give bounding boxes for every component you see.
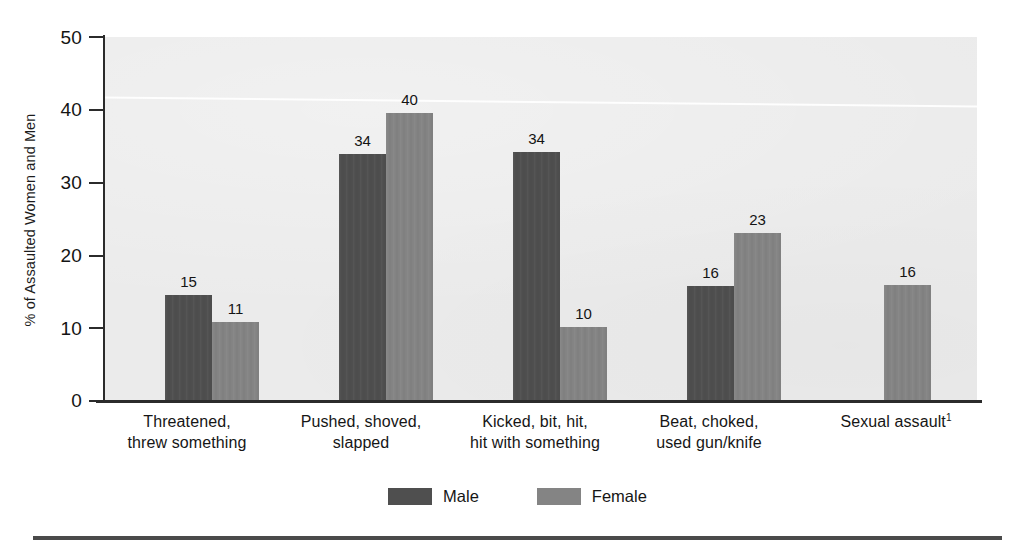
x-category-label-threatened: Threatened, threw something [100, 411, 274, 453]
bar-value-female-threatened: 11 [228, 300, 244, 317]
x-category-line2-pushed: slapped [274, 432, 448, 453]
x-category-label-pushed: Pushed, shoved, slapped [274, 411, 448, 453]
bar-value-male-kicked: 34 [528, 130, 545, 147]
bar-value-male-pushed: 34 [354, 132, 371, 149]
y-tick-mark-10 [89, 327, 104, 329]
x-category-line1-pushed: Pushed, shoved, [301, 413, 422, 430]
y-tick-mark-40 [89, 109, 104, 111]
x-category-line2-beat: used gun/knife [622, 432, 796, 453]
bar-female-kicked: 10 [560, 327, 607, 400]
y-tick-label-10: 10 [22, 318, 82, 340]
bar-male-kicked: 34 [513, 152, 560, 400]
y-tick-label-0: 0 [22, 390, 82, 412]
bar-female-sexual-assault: 16 [884, 285, 931, 400]
footnote-marker-sexual-assault: 1 [946, 412, 952, 423]
y-tick-label-20: 20 [22, 245, 82, 267]
chart-legend: Male Female [0, 487, 1035, 506]
legend-item-female: Female [537, 487, 647, 506]
bar-value-male-threatened: 15 [180, 273, 197, 290]
legend-label-female: Female [592, 487, 647, 506]
x-category-label-kicked: Kicked, bit, hit, hit with something [448, 411, 622, 453]
bar-value-female-pushed: 40 [401, 91, 418, 108]
bar-value-male-beat: 16 [702, 264, 719, 281]
bar-group-pushed: 34 40 [335, 37, 457, 400]
y-tick-label-50: 50 [22, 27, 82, 49]
bar-value-female-sexual-assault: 16 [899, 263, 916, 280]
x-category-label-sexual-assault: Sexual assault1 [796, 411, 996, 432]
x-category-label-beat: Beat, choked, used gun/knife [622, 411, 796, 453]
bottom-rule-divider [33, 536, 1002, 540]
y-tick-mark-20 [89, 255, 104, 257]
y-axis-title: % of Assaulted Women and Men [22, 20, 44, 420]
x-axis-line [96, 400, 982, 403]
bar-male-beat: 16 [687, 286, 734, 400]
bar-group-sexual-assault: 16 [857, 37, 979, 400]
bar-female-threatened: 11 [212, 322, 259, 400]
legend-swatch-female-icon [537, 488, 581, 505]
x-category-line1-threatened: Threatened, [143, 413, 230, 430]
y-tick-label-30: 30 [22, 172, 82, 194]
bar-group-beat: 16 23 [683, 37, 805, 400]
bar-male-threatened: 15 [165, 295, 212, 400]
x-category-line1-kicked: Kicked, bit, hit, [482, 413, 588, 430]
x-category-line1-beat: Beat, choked, [659, 413, 758, 430]
bar-group-threatened: 15 11 [161, 37, 283, 400]
y-axis-line [103, 35, 105, 402]
bar-value-female-kicked: 10 [575, 305, 592, 322]
x-category-line1-sexual-assault: Sexual assault [840, 413, 945, 430]
bar-chart-figure: % of Assaulted Women and Men 50 40 30 20… [0, 0, 1035, 548]
bar-group-kicked: 34 10 [509, 37, 631, 400]
bar-female-pushed: 40 [386, 113, 433, 400]
bar-value-female-beat: 23 [749, 211, 766, 228]
legend-swatch-male-icon [388, 488, 432, 505]
bar-male-pushed: 34 [339, 154, 386, 400]
plot-area: 15 11 34 40 34 10 16 [105, 37, 977, 400]
x-category-line2-threatened: threw something [100, 432, 274, 453]
legend-label-male: Male [443, 487, 479, 506]
legend-item-male: Male [388, 487, 479, 506]
y-tick-mark-50 [89, 36, 104, 38]
x-category-line2-kicked: hit with something [448, 432, 622, 453]
bar-female-beat: 23 [734, 233, 781, 400]
y-tick-label-40: 40 [22, 99, 82, 121]
y-tick-mark-30 [89, 182, 104, 184]
